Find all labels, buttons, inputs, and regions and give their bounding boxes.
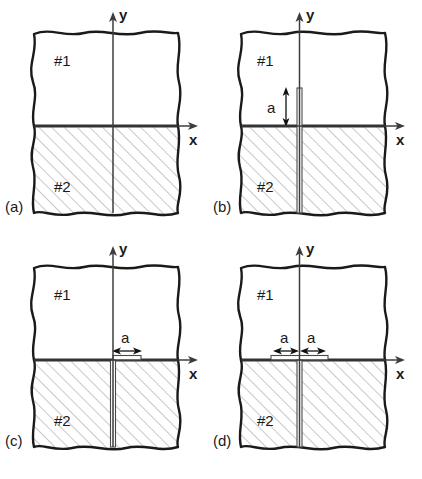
material-2-label: #2 <box>257 412 274 429</box>
x-axis-label: x <box>396 131 405 148</box>
material-2-label: #2 <box>54 178 71 195</box>
panel-b-label: (b) <box>213 198 231 215</box>
x-axis-label: x <box>396 365 405 382</box>
panel-a-label: (a) <box>5 198 23 215</box>
material-1-region <box>31 265 180 360</box>
x-axis-label: x <box>189 365 198 382</box>
figure-four-panel-interface-crack: y x #1 #2 (a) <box>0 0 422 479</box>
material-1-label: #1 <box>54 286 71 303</box>
panel-a: y x #1 #2 (a) <box>0 0 211 239</box>
y-axis-label: y <box>306 240 315 257</box>
dimension-a-label: a <box>121 329 130 346</box>
y-axis-label: y <box>119 6 128 23</box>
dimension-a-left-label: a <box>280 329 289 346</box>
material-1-region <box>31 31 180 126</box>
material-2-region <box>239 126 388 215</box>
material-1-region <box>238 31 387 126</box>
material-1-label: #1 <box>54 52 71 69</box>
material-1-label: #1 <box>257 52 274 69</box>
panel-c: a y x #1 #2 (c) <box>0 240 211 479</box>
panel-d-label: (d) <box>213 432 231 449</box>
dimension-a-label: a <box>267 99 276 116</box>
material-2-region <box>239 360 388 449</box>
material-2-label: #2 <box>257 178 274 195</box>
x-axis-label: x <box>189 131 198 148</box>
y-axis-label: y <box>119 240 128 257</box>
y-axis-label: y <box>306 6 315 23</box>
panel-d: a a y x #1 #2 (d) <box>211 240 422 479</box>
panel-b: a y x #1 #2 (b) <box>211 0 422 239</box>
dimension-a-right-label: a <box>307 329 316 346</box>
material-2-region <box>32 126 181 215</box>
panel-c-label: (c) <box>5 432 23 449</box>
material-2-label: #2 <box>54 412 71 429</box>
material-2-region <box>32 360 181 449</box>
material-1-label: #1 <box>257 286 274 303</box>
